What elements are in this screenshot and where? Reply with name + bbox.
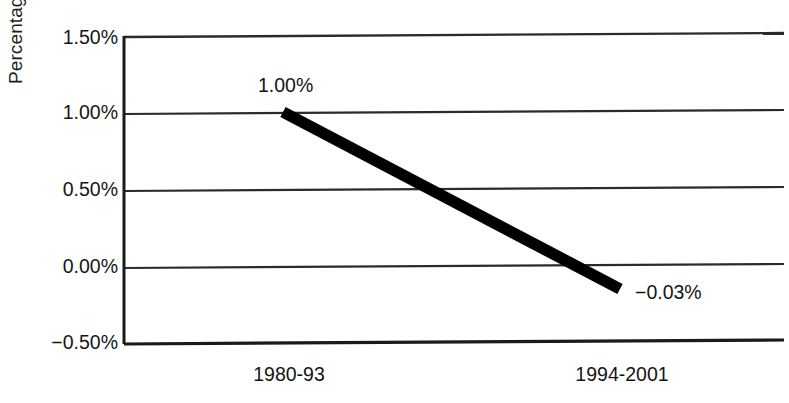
x-axis-line (124, 340, 784, 344)
data-series-line (283, 112, 620, 289)
grid-lines (124, 33, 784, 268)
chart-screenshot: Percentage Growth 1.50% 1.00% 0.50% 0.00… (0, 0, 789, 403)
data-point-label: −0.03% (635, 281, 702, 303)
data-point-label: 1.00% (258, 74, 313, 96)
plot-area (0, 0, 789, 403)
x-tick-label: 1980-93 (219, 363, 359, 385)
x-tick-label: 1994-2001 (547, 363, 697, 385)
